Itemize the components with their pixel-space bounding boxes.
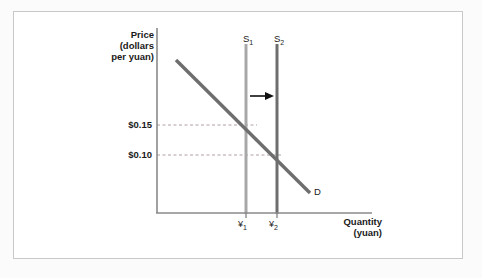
x-axis-title: Quantity(yuan): [300, 216, 382, 238]
supply-curve-s1-label-sub: 1: [249, 39, 253, 46]
y-axis-title-line3: per yuan): [111, 51, 154, 62]
x-tick-label-2-sub: 2: [274, 224, 278, 231]
y-tick-label-015: $0.15: [100, 119, 152, 130]
supply-curve-s1-label: S1: [243, 33, 253, 47]
x-axis-title-line1: Quantity: [343, 216, 382, 227]
x-axis-title-line2: (yuan): [354, 227, 383, 238]
demand-curve-label: D: [314, 186, 321, 197]
y-axis-title-line1: Price: [131, 29, 154, 40]
supply-curve-s2-label: S2: [274, 33, 284, 47]
shift-arrow-icon: [250, 92, 274, 100]
chart-canvas: [0, 0, 482, 278]
x-tick-label-1-sub: 1: [243, 224, 247, 231]
demand-curve-d: [176, 60, 310, 193]
y-axis-title-line2: (dollars: [120, 40, 154, 51]
supply-curve-s2-label-sub: 2: [280, 39, 284, 46]
x-tick-label-2: ¥2: [269, 219, 278, 232]
x-tick-label-1: ¥1: [238, 219, 247, 232]
figure-root: Price(dollarsper yuan) Quantity(yuan) $0…: [0, 0, 482, 278]
y-axis-title: Price(dollarsper yuan): [96, 29, 154, 63]
y-tick-label-010: $0.10: [100, 149, 152, 160]
